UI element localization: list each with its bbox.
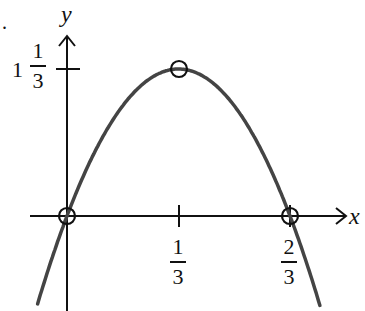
y-tick-numerator: 1 [33,40,44,62]
x-tick-numerator: 1 [173,236,184,258]
y-tick-denominator: 3 [33,70,44,92]
corner-mark: . [2,12,7,32]
y-tick-whole: 1 [12,59,23,81]
x-tick-denominator: 3 [173,266,184,288]
x-tick-label-2-3: 2 3 [281,236,297,288]
x-axis-label: x [349,204,360,228]
y-tick-label-fraction: 1 3 [30,40,46,92]
x-tick-label-1-3: 1 3 [170,236,186,288]
x-tick-denominator: 3 [284,266,295,288]
fraction-bar [281,261,297,263]
y-axis-label: y [61,2,72,26]
fraction-bar [170,261,186,263]
x-tick-numerator: 2 [284,236,295,258]
fraction-bar [30,65,46,67]
